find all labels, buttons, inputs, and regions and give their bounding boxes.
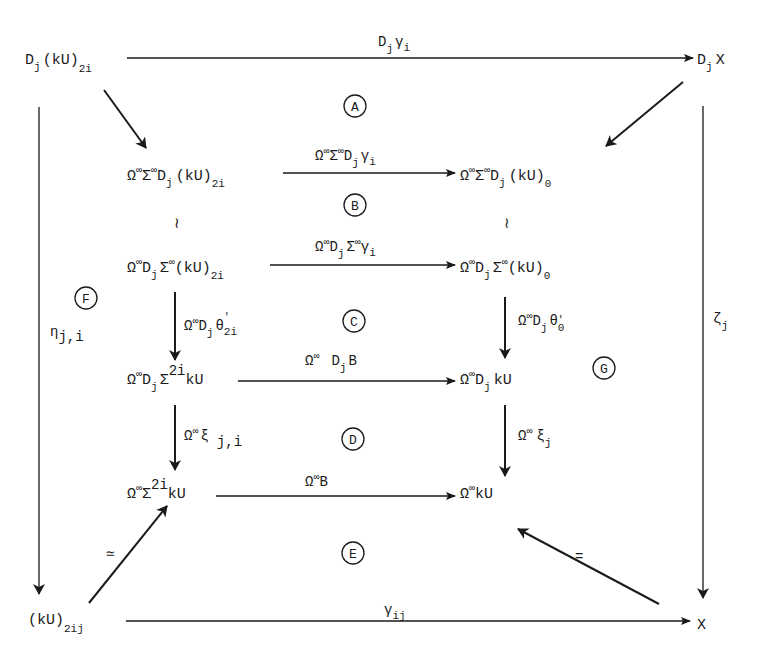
node-row2-left: Ω∞DjΣ∞(kU)2i (127, 257, 224, 282)
region-f-label: F (75, 287, 97, 309)
arrow-left-inner-2-label: Ω∞ξj,i (184, 426, 242, 450)
svg-text:Ω∞Σ∞Dj(kU)0: Ω∞Σ∞Dj(kU)0 (460, 165, 551, 190)
region-g-label: G (593, 357, 615, 379)
node-row3-left: Ω∞DjΣ2ikU (127, 363, 204, 393)
node-row1-left: Ω∞Σ∞Dj(kU)2i (127, 165, 225, 190)
svg-text:D: D (349, 433, 357, 448)
svg-text:A: A (351, 100, 359, 115)
node-bottom-right: X (697, 617, 706, 634)
arrow-diag-top-left (104, 90, 146, 148)
arrow-diag-bottom-right (518, 529, 659, 604)
arrow-row3-label: Ω∞DjB (305, 351, 357, 374)
node-bottom-left: (kU)2ij (28, 612, 84, 635)
svg-text:X: X (697, 617, 706, 634)
region-e-label: E (342, 542, 364, 564)
arrow-diag-bottom-left-label: ≃ (106, 546, 114, 562)
arrow-right-inner-1-label: Ω∞Djθ'0 (518, 311, 564, 334)
arrow-row2-label: Ω∞DjΣ∞γi (315, 237, 376, 260)
svg-text:DjX: DjX (697, 52, 725, 73)
iso-right: ≀ (504, 216, 510, 233)
svg-text:Ω∞Σ2ikU: Ω∞Σ2ikU (127, 477, 186, 503)
svg-text:G: G (600, 362, 608, 377)
svg-text:C: C (350, 315, 358, 330)
node-row1-right: Ω∞Σ∞Dj(kU)0 (460, 165, 551, 190)
svg-text:B: B (351, 199, 359, 214)
arrow-bottom-label: γij (384, 602, 406, 622)
arrow-diag-top-right (606, 82, 683, 146)
region-b-label: B (344, 194, 366, 216)
node-row3-right: Ω∞DjkU (460, 369, 512, 393)
arrow-right-outer-label: ζj (713, 311, 728, 332)
svg-text:Ω∞kU: Ω∞kU (460, 483, 493, 503)
arrow-row4-label: Ω∞B (305, 472, 328, 490)
svg-text:(kU)2ij: (kU)2ij (28, 612, 84, 635)
node-top-right: DjX (697, 52, 725, 73)
arrow-left-outer-label: ηj,i (50, 324, 84, 345)
node-top-left: Dj(kU)2i (25, 52, 92, 75)
svg-text:Ω∞DjΣ∞(kU)0: Ω∞DjΣ∞(kU)0 (460, 257, 550, 282)
region-d-label: D (342, 428, 364, 450)
commutative-diagram: Dj(kU)2i DjX Ω∞Σ∞Dj(kU)2i Ω∞Σ∞Dj(kU)0 Ω∞… (0, 0, 758, 668)
node-row4-right: Ω∞kU (460, 483, 493, 503)
svg-text:Dj(kU)2i: Dj(kU)2i (25, 52, 92, 75)
svg-text:F: F (82, 292, 90, 307)
svg-text:Ω∞DjΣ∞(kU)2i: Ω∞DjΣ∞(kU)2i (127, 257, 224, 282)
svg-text:Ω∞Σ∞Dj(kU)2i: Ω∞Σ∞Dj(kU)2i (127, 165, 225, 190)
node-row2-right: Ω∞DjΣ∞(kU)0 (460, 257, 550, 282)
svg-text:Ω∞DjkU: Ω∞DjkU (460, 369, 512, 393)
arrow-left-inner-1-label: Ω∞Djθ'2i (184, 312, 237, 339)
arrow-top-label: Djγi (378, 34, 410, 55)
arrow-right-inner-2-label: Ω∞ξj (518, 426, 551, 449)
iso-left: ≀ (174, 216, 180, 233)
node-row4-left: Ω∞Σ2ikU (127, 477, 186, 503)
svg-text:E: E (349, 547, 357, 562)
arrow-diag-bottom-left (89, 506, 167, 603)
arrow-diag-bottom-right-label: = (575, 549, 583, 565)
arrow-row1-label: Ω∞Σ∞Djγi (315, 146, 376, 169)
svg-text:Ω∞DjΣ2ikU: Ω∞DjΣ2ikU (127, 363, 204, 393)
region-a-label: A (344, 95, 366, 117)
region-c-label: C (343, 310, 365, 332)
